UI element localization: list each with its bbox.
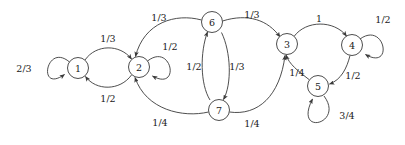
node-5[interactable]: 5 (308, 76, 329, 97)
node-1[interactable]: 1 (68, 58, 89, 79)
node-4[interactable]: 4 (342, 35, 363, 56)
edge-label-4-to-4: 1/2 (375, 14, 390, 25)
node-2[interactable]: 2 (129, 57, 150, 78)
edge-4-to-4 (360, 35, 383, 58)
edge-7-to-2 (135, 78, 209, 114)
edge-label-2-to-1: 1/2 (100, 93, 115, 104)
node-3[interactable]: 3 (277, 34, 298, 55)
node-3-label: 3 (284, 39, 290, 50)
edge-label-2-to-2: 1/2 (162, 41, 177, 52)
edge-label-6-to-7: 1/3 (229, 61, 244, 72)
node-1-label: 1 (75, 63, 81, 74)
node-6-label: 6 (209, 17, 215, 28)
edge-2-to-2 (148, 57, 171, 80)
edge-label-7-to-3: 1/4 (244, 118, 259, 129)
node-5-label: 5 (315, 81, 321, 92)
edge-label-5-to-5: 3/4 (339, 110, 354, 121)
edge-1-to-2 (85, 48, 132, 60)
edge-1-to-1 (48, 57, 70, 79)
edge-label-4-to-5: 1/2 (345, 70, 360, 81)
edge-label-5-to-3: 1/4 (289, 67, 304, 78)
nodes-layer: 1 2 3 4 5 6 7 (68, 12, 363, 121)
node-2-label: 2 (136, 62, 142, 73)
edge-label-1-to-1: 2/3 (16, 63, 31, 74)
edge-label-1-to-2: 1/3 (100, 33, 115, 44)
edge-3-to-4 (294, 24, 347, 36)
node-6[interactable]: 6 (202, 12, 223, 33)
diagram-canvas: 1 2 3 4 5 6 7 (0, 0, 405, 145)
edge-6-to-3 (223, 18, 281, 37)
edge-label-7-to-6: 1/2 (186, 61, 201, 72)
node-7[interactable]: 7 (209, 100, 230, 121)
edge-label-6-to-3: 1/3 (244, 9, 259, 20)
edge-2-to-1 (86, 75, 132, 87)
edge-label-3-to-4: 1 (316, 13, 322, 24)
node-4-label: 4 (349, 40, 355, 51)
edge-6-to-7 (222, 33, 230, 100)
edge-label-6-to-2: 1/3 (151, 12, 166, 23)
edge-5-to-5 (308, 96, 329, 123)
state-transition-graph: 1 2 3 4 5 6 7 (0, 0, 405, 145)
node-7-label: 7 (216, 105, 222, 116)
edge-7-to-6 (202, 32, 210, 100)
edge-label-7-to-2: 1/4 (152, 117, 167, 128)
